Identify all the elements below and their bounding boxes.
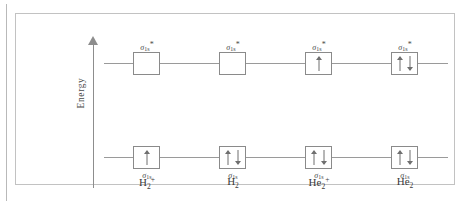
molecule-formula-label: He2+ [276, 175, 362, 191]
electron-arrows [313, 54, 325, 73]
mo-column-he2-plus: σ1s*σ1sHe2+ [276, 34, 362, 194]
antibonding-orbital-label: σ1s* [276, 40, 362, 52]
energy-axis: Energy [71, 36, 105, 188]
antibonding-orbital-box [219, 52, 246, 75]
energy-axis-label: Energy [76, 55, 86, 131]
antibonding-level-h2-plus: σ1s* [104, 52, 190, 76]
electron-arrows [223, 148, 243, 167]
molecule-formula-label: H2+ [104, 175, 190, 191]
antibonding-orbital-label: σ1s* [190, 40, 276, 52]
molecule-formula-label: H2 [190, 175, 276, 190]
antibonding-level-h2: σ1s* [190, 52, 276, 76]
energy-axis-line [93, 42, 94, 188]
electron-arrows [395, 54, 415, 73]
electron-arrows [309, 148, 329, 167]
bonding-level-h2: σ1s [190, 146, 276, 170]
mo-column-h2-plus: σ1s*σ1sH2+ [104, 34, 190, 194]
electron-arrows [395, 148, 415, 167]
antibonding-orbital-box [133, 52, 160, 75]
antibonding-level-he2-plus: σ1s* [276, 52, 362, 76]
bonding-orbital-box [305, 146, 332, 169]
page-edge-rule [6, 4, 7, 201]
bonding-orbital-box [133, 146, 160, 169]
bonding-orbital-box [219, 146, 246, 169]
bonding-level-he2: σ1s [362, 146, 448, 170]
bonding-orbital-box [391, 146, 418, 169]
mo-column-he2: σ1s*σ1sHe2 [362, 34, 448, 194]
bonding-level-h2-plus: σ1s [104, 146, 190, 170]
mo-diagram-figure: Energy σ1s*σ1sH2+σ1s*σ1sH2σ1s*σ1sHe2+σ1s… [0, 0, 470, 205]
antibonding-orbital-label: σ1s* [104, 40, 190, 52]
molecule-formula-label: He2 [362, 175, 448, 190]
electron-arrows [141, 148, 153, 167]
antibonding-orbital-box [305, 52, 332, 75]
mo-column-h2: σ1s*σ1sH2 [190, 34, 276, 194]
antibonding-orbital-box [391, 52, 418, 75]
antibonding-orbital-label: σ1s* [362, 40, 448, 52]
antibonding-level-he2: σ1s* [362, 52, 448, 76]
figure-panel: Energy σ1s*σ1sH2+σ1s*σ1sH2σ1s*σ1sHe2+σ1s… [15, 13, 455, 185]
bonding-level-he2-plus: σ1s [276, 146, 362, 170]
